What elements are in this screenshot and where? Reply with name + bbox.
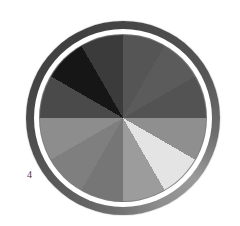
figure-number-label: 4 [27, 169, 32, 181]
figure-plate: 4 [0, 0, 240, 226]
wheel-segments [39, 34, 207, 202]
color-wheel [26, 21, 220, 215]
